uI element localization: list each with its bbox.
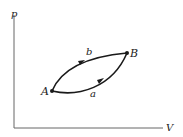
point-b-marker bbox=[125, 51, 129, 55]
point-a-label: A bbox=[40, 85, 49, 98]
path-a-curve bbox=[52, 53, 127, 93]
pv-diagram: p V b a A B bbox=[0, 0, 183, 137]
path-a-label: a bbox=[90, 88, 96, 99]
point-a-marker bbox=[50, 89, 54, 93]
v-axis-label: V bbox=[166, 122, 175, 133]
path-b-label: b bbox=[86, 46, 92, 57]
p-axis-label: p bbox=[11, 8, 18, 19]
point-b-label: B bbox=[129, 47, 138, 60]
